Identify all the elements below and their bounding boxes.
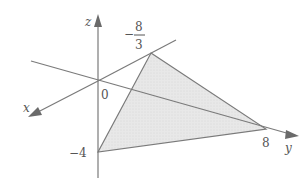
y-intercept-label: 8: [262, 136, 270, 150]
z-intercept-numerator: 8: [135, 20, 143, 34]
x-axis-label: x: [23, 101, 30, 115]
x-axis-arrow-icon: [28, 107, 42, 117]
y-axis-label: y: [284, 141, 292, 155]
origin-label: 0: [101, 88, 109, 102]
diagram-canvas: z x y 0 − 8 3 −4 8: [0, 0, 307, 188]
z-intercept-sign: −: [124, 27, 134, 41]
z-axis-arrow-icon: [94, 14, 102, 27]
z-intercept-denominator: 3: [135, 38, 143, 52]
y-axis-arrow-icon: [285, 130, 299, 139]
x-axis: [36, 81, 98, 113]
z-bottom-intercept-label: −4: [69, 146, 87, 160]
z-axis-label: z: [84, 15, 92, 29]
